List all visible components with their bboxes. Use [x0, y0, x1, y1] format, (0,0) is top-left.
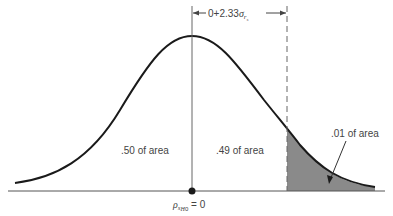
critical-value-label: 0+2.33σrs — [208, 8, 249, 22]
mean-point — [189, 188, 196, 195]
middle-area-label: .49 of area — [216, 145, 264, 156]
left-area-label: .50 of area — [121, 145, 169, 156]
tail-pointer-arrow — [330, 141, 346, 180]
arrowhead-right-icon — [280, 11, 286, 16]
null-hypothesis-label: ρsH0 = 0 — [172, 199, 206, 212]
bell-curve — [15, 36, 375, 187]
tail-area-label: .01 of area — [331, 128, 379, 139]
arrowhead-left-icon — [193, 11, 199, 16]
normal-curve-diagram: 0+2.33σrs .50 of area .49 of area .01 of… — [0, 0, 393, 216]
